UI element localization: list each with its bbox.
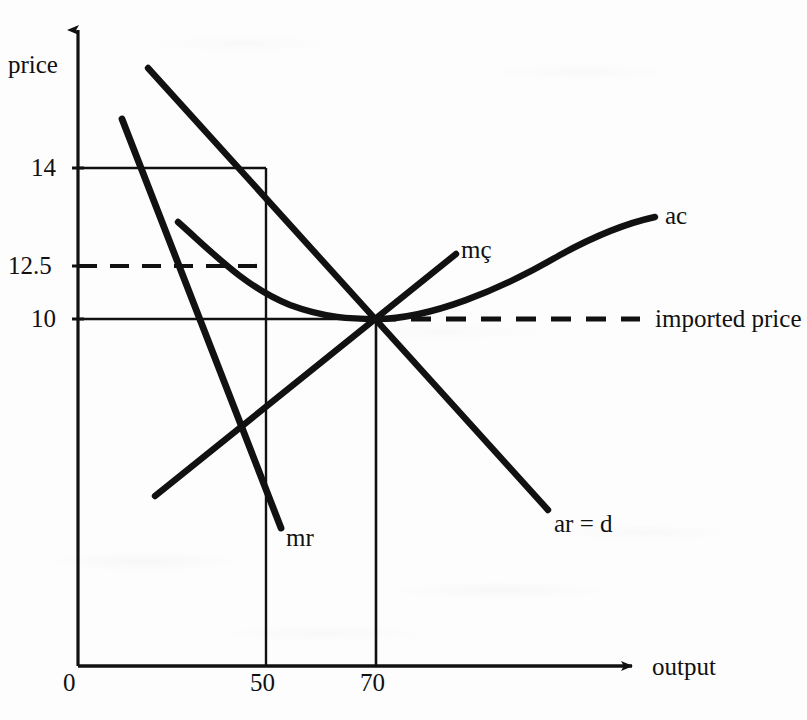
- curve-label-ar-d: ar = d: [554, 511, 613, 536]
- economics-diagram: [0, 0, 807, 720]
- y-tick-label-10: 10: [31, 306, 56, 331]
- curve-mc: [155, 254, 456, 496]
- x-tick-label-origin: 0: [63, 670, 76, 695]
- y-axis-label: price: [8, 52, 58, 77]
- y-tick-label-12point5: 12.5: [8, 253, 52, 278]
- curve-label-ac: ac: [665, 203, 687, 228]
- curve-label-mc: mç: [461, 237, 492, 262]
- curve-mr: [122, 119, 281, 528]
- curve-label-mr: mr: [286, 525, 314, 550]
- y-tick-label-14: 14: [31, 155, 56, 180]
- figure-canvas: price output 0 14 12.5 10 50 70 ac mç mr…: [0, 0, 807, 720]
- x-axis-label: output: [652, 654, 716, 679]
- x-tick-label-70: 70: [360, 670, 385, 695]
- x-tick-label-50: 50: [250, 670, 275, 695]
- curve-label-imported-price: imported price: [655, 306, 801, 331]
